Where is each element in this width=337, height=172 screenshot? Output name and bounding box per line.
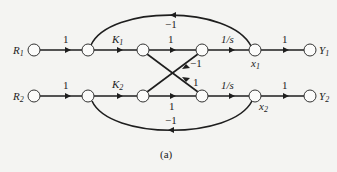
gain-feedback-bottom: −1 <box>165 114 177 126</box>
node-x1 <box>249 44 261 56</box>
label-x2: x2 <box>258 100 268 114</box>
gain-k1: K1 <box>111 33 123 47</box>
figure-caption: (a) <box>160 148 173 161</box>
node-n1a <box>82 44 94 56</box>
label-y1: Y1 <box>319 44 329 58</box>
arrow-icon <box>229 93 235 99</box>
label-x1: x1 <box>250 57 260 71</box>
node-y2 <box>304 90 316 102</box>
label-r2: R2 <box>12 90 24 104</box>
gain-feedback-top: −1 <box>165 18 177 30</box>
arrow-icon <box>117 93 123 99</box>
node-n2a <box>82 90 94 102</box>
label-y2: Y2 <box>319 90 329 104</box>
arrow-icon <box>170 47 176 53</box>
gain-1-row1: 1 <box>168 33 174 45</box>
arrow-icon <box>117 47 123 53</box>
label-r1: R1 <box>12 44 24 58</box>
arrow-icon <box>283 47 289 53</box>
row1-edges <box>40 47 304 53</box>
gain-y1: 1 <box>282 33 288 45</box>
gain-y2: 1 <box>282 79 288 91</box>
gain-1-row2: 1 <box>169 100 175 112</box>
arrow-icon <box>65 93 71 99</box>
node-n2c <box>196 90 208 102</box>
node-n1b <box>137 44 149 56</box>
node-y1 <box>304 44 316 56</box>
gain-k2: K2 <box>111 78 123 92</box>
gain-1s-row1: 1/s <box>221 33 234 45</box>
node-n1c <box>196 44 208 56</box>
arrow-icon <box>283 93 289 99</box>
signal-flow-graph: R1 R2 Y1 Y2 x1 x2 1 K1 1 1/s 1 −1 1 K2 1… <box>0 0 337 172</box>
gain-labels: 1 K1 1 1/s 1 −1 1 K2 1 1/s 1 −1 −1 1 (a) <box>63 18 288 161</box>
node-n2b <box>137 90 149 102</box>
gain-cross-down: 1 <box>193 76 199 88</box>
node-r1 <box>28 44 40 56</box>
arrow-icon <box>168 127 174 133</box>
arrow-icon <box>229 47 235 53</box>
gain-cross-up: −1 <box>190 57 202 69</box>
gain-r2: 1 <box>63 79 69 91</box>
row2-edges <box>40 93 304 99</box>
arrow-icon <box>170 93 176 99</box>
arrow-icon <box>65 47 71 53</box>
gain-1s-row2: 1/s <box>221 79 234 91</box>
gain-r1: 1 <box>63 33 69 45</box>
node-r2 <box>28 90 40 102</box>
